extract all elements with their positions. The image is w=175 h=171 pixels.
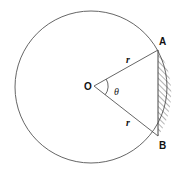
point-a-label: A [159, 36, 166, 47]
radius-label-bottom: r [126, 117, 130, 128]
shaded-segment [158, 50, 171, 136]
angle-arc [105, 79, 108, 95]
radius-ob [94, 86, 158, 136]
circle-segment-diagram: O A B r r θ [0, 0, 175, 171]
center-label: O [84, 81, 92, 92]
radius-label-top: r [126, 54, 130, 65]
point-b-label: B [159, 140, 166, 151]
angle-theta-label: θ [114, 86, 119, 97]
